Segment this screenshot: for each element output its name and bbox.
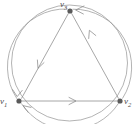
arrowhead-v2-v3	[89, 30, 96, 38]
graph-figure: v3 v1 v2	[0, 0, 138, 124]
edge-arc-v2-to-v3	[73, 6, 132, 99]
vertex-label-v1-sub: 1	[4, 101, 7, 108]
edge-arc-v3-to-v1	[7, 9, 67, 99]
vertex-label-v2-sub: 2	[128, 101, 131, 108]
edge-v1-to-v2	[22, 97, 118, 104]
arc-line-v3-v1	[7, 9, 67, 99]
vertex-v2-dot	[117, 98, 122, 103]
arrowhead-arc-v2-v1	[23, 106, 31, 113]
edge-v3-to-v1	[21, 13, 68, 98]
vertex-v3-dot	[67, 8, 72, 13]
directed-graph-canvas	[0, 0, 138, 124]
edge-line-v2-v3	[72, 13, 119, 98]
vertex-label-v3: v3	[60, 0, 67, 11]
edge-v2-to-v3	[72, 13, 119, 98]
vertex-label-v3-sub: 3	[64, 4, 67, 11]
edge-line-v3-v1	[21, 13, 68, 98]
vertex-label-v1: v1	[0, 97, 7, 108]
vertex-label-v2: v2	[124, 97, 131, 108]
vertex-v1-dot	[16, 98, 21, 103]
